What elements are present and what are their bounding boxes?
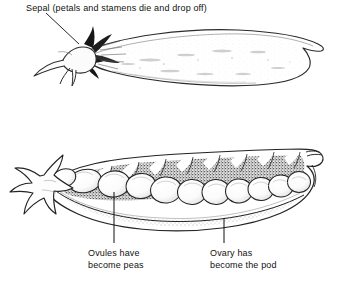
pea-seed: [288, 172, 311, 193]
leader-line-sepal: [46, 13, 79, 44]
opened-pea-pod: [10, 149, 323, 231]
whole-pea-pod: [34, 26, 323, 86]
pod-body-outline: [85, 30, 323, 86]
pea-pod-diagram: [0, 0, 358, 281]
receptacle-upper: [62, 47, 96, 73]
stalk-upper: [34, 60, 64, 76]
